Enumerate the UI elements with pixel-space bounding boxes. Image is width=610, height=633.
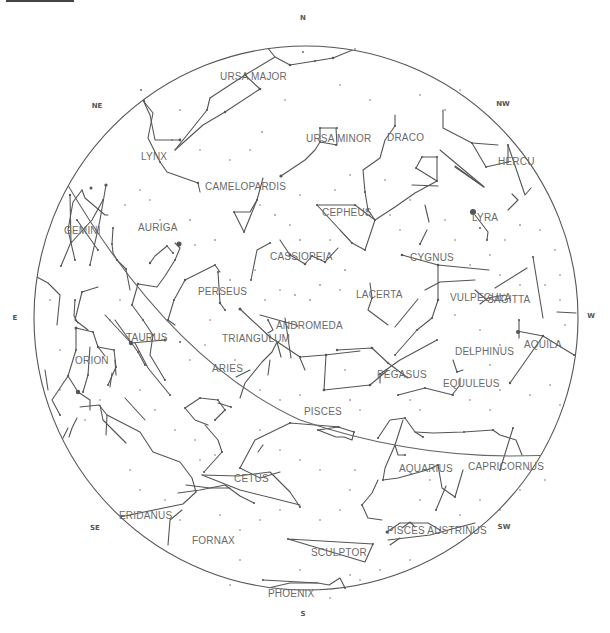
- star: [164, 379, 166, 381]
- star: [189, 219, 191, 221]
- star: [269, 242, 271, 244]
- star: [485, 166, 487, 168]
- constellation-label[interactable]: CYGNUS: [410, 252, 454, 263]
- star: [279, 174, 282, 177]
- constellation-label[interactable]: URSA MAJOR: [220, 71, 287, 82]
- star: [486, 239, 488, 241]
- constellation-label[interactable]: PISCES: [304, 406, 342, 417]
- horizon-circle: [34, 46, 578, 590]
- constellation-label[interactable]: AQUILA: [524, 339, 562, 350]
- star: [149, 199, 150, 200]
- constellation-label[interactable]: PERSEUS: [198, 286, 247, 297]
- star: [102, 199, 104, 201]
- constellation-label[interactable]: PHOENIX: [268, 588, 315, 599]
- star: [179, 139, 182, 142]
- star: [279, 399, 280, 400]
- star: [113, 349, 115, 351]
- constellation-label[interactable]: GEMINI: [64, 225, 101, 236]
- star: [573, 354, 575, 356]
- star: [409, 199, 410, 200]
- constellation-label[interactable]: LYRA: [472, 212, 498, 223]
- star: [479, 227, 481, 229]
- star: [219, 302, 221, 304]
- star: [299, 569, 300, 570]
- constellation-label[interactable]: SCULPTOR: [311, 547, 367, 558]
- star: [469, 399, 470, 400]
- star: [319, 284, 321, 286]
- star: [337, 426, 339, 428]
- star: [90, 187, 93, 190]
- constellation-line: [138, 542, 153, 553]
- star: [359, 579, 360, 580]
- constellation-label[interactable]: ORION: [75, 355, 109, 366]
- star: [239, 467, 241, 469]
- star: [289, 422, 291, 424]
- constellation-label[interactable]: TAURUS: [126, 332, 168, 343]
- star: [379, 569, 380, 570]
- constellation-label[interactable]: CEPHEUS: [322, 207, 372, 218]
- star: [149, 262, 151, 264]
- constellation-label[interactable]: DRACO: [387, 132, 424, 143]
- constellation-label[interactable]: URSA MINOR: [306, 133, 371, 144]
- constellation-label[interactable]: AQUARIUS: [399, 463, 453, 474]
- constellation-label[interactable]: CASSIOPEIA: [270, 251, 333, 262]
- constellation-label[interactable]: LYNX: [141, 151, 167, 162]
- star: [532, 256, 534, 258]
- constellation-label[interactable]: EQUULEUS: [443, 378, 500, 389]
- star: [369, 99, 370, 100]
- star: [519, 489, 520, 490]
- star: [129, 469, 130, 470]
- constellation-label[interactable]: LACERTA: [356, 289, 403, 300]
- star: [325, 354, 328, 357]
- star-chart[interactable]: URSA MAJORURSA MINORDRACOHERCULYNXCAMELO…: [0, 0, 610, 633]
- star: [230, 406, 232, 408]
- star: [559, 274, 560, 275]
- star: [544, 284, 545, 285]
- star: [259, 429, 260, 430]
- star: [463, 431, 465, 433]
- star: [492, 429, 494, 431]
- star: [499, 509, 500, 510]
- constellation-label[interactable]: ARIES: [212, 363, 243, 374]
- constellation-label[interactable]: HERCU: [498, 156, 535, 167]
- star: [489, 409, 490, 410]
- constellation-label[interactable]: FORNAX: [192, 535, 235, 546]
- star: [329, 597, 330, 598]
- star: [194, 244, 195, 245]
- constellation-label[interactable]: CETUS: [234, 473, 269, 484]
- star: [369, 384, 372, 387]
- star: [203, 471, 205, 473]
- star: [174, 259, 176, 261]
- star: [249, 149, 250, 150]
- star: [314, 60, 316, 62]
- star: [139, 389, 140, 390]
- star: [349, 399, 351, 401]
- star: [279, 449, 280, 450]
- constellation-label[interactable]: SAGITTA: [487, 294, 531, 305]
- constellation-label[interactable]: DELPHINUS: [455, 346, 514, 357]
- star: [372, 543, 374, 545]
- constellation-line: [94, 535, 109, 548]
- constellation-label[interactable]: CAMELOPARDIS: [205, 181, 286, 192]
- star: [509, 382, 511, 384]
- constellation-label[interactable]: PEGASUS: [377, 369, 427, 380]
- star: [518, 319, 520, 321]
- constellation-label[interactable]: TRIANGULUM: [222, 333, 290, 344]
- star: [70, 241, 72, 243]
- star: [233, 211, 235, 213]
- star: [512, 427, 514, 429]
- star: [319, 469, 320, 470]
- constellation-label[interactable]: ERIDANUS: [119, 510, 172, 521]
- star: [371, 347, 374, 350]
- constellation-label[interactable]: CAPRICORNUS: [468, 461, 544, 472]
- star: [319, 127, 321, 129]
- constellation-label[interactable]: AURIGA: [138, 222, 178, 233]
- star: [419, 409, 420, 410]
- constellation-label[interactable]: PISCES AUSTRINUS: [387, 525, 487, 536]
- star: [60, 265, 62, 267]
- star: [74, 299, 76, 301]
- star: [469, 264, 470, 265]
- star: [214, 264, 216, 266]
- constellation-label[interactable]: ANDROMEDA: [276, 320, 343, 331]
- star: [139, 489, 140, 490]
